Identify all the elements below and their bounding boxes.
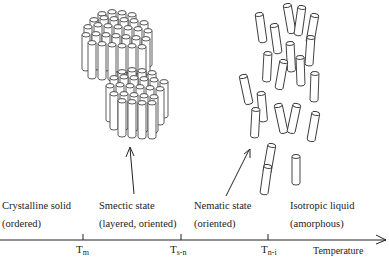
- smectic-lower-layer: [106, 68, 168, 139]
- phase-description: (amorphous): [290, 218, 354, 230]
- nematic-pointer-arrow: [226, 149, 250, 196]
- phase-label-isotropic: Isotropic liquid (amorphous): [290, 200, 354, 230]
- smectic-pointer-arrow: [126, 147, 134, 194]
- phase-description: (oriented): [194, 218, 251, 230]
- tick-label-tsn: Ts-n: [170, 243, 187, 257]
- phase-description: (layered, oriented): [99, 218, 177, 230]
- temperature-axis: [0, 234, 386, 244]
- phase-name: Smectic state: [99, 200, 177, 212]
- phase-label-nematic: Nematic state (oriented): [194, 200, 251, 230]
- tick-label-tm: Tm: [76, 243, 89, 257]
- smectic-illustration: [82, 10, 168, 139]
- phase-label-crystalline: Crystalline solid (ordered): [2, 200, 71, 230]
- phase-name: Crystalline solid: [2, 200, 71, 212]
- nematic-illustration: [239, 3, 320, 195]
- phase-label-smectic: Smectic state (layered, oriented): [99, 200, 177, 230]
- tick-label-tni: Tn-i: [261, 243, 277, 257]
- axis-label-temperature: Temperature: [313, 245, 363, 256]
- phase-name: Isotropic liquid: [290, 200, 354, 212]
- phase-description: (ordered): [2, 218, 71, 230]
- phase-name: Nematic state: [194, 200, 251, 212]
